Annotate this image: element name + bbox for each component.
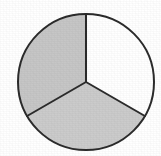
pie-chart-figure: Circle divided into three equal parts, t… bbox=[0, 0, 161, 156]
pie-chart-svg bbox=[0, 0, 161, 156]
